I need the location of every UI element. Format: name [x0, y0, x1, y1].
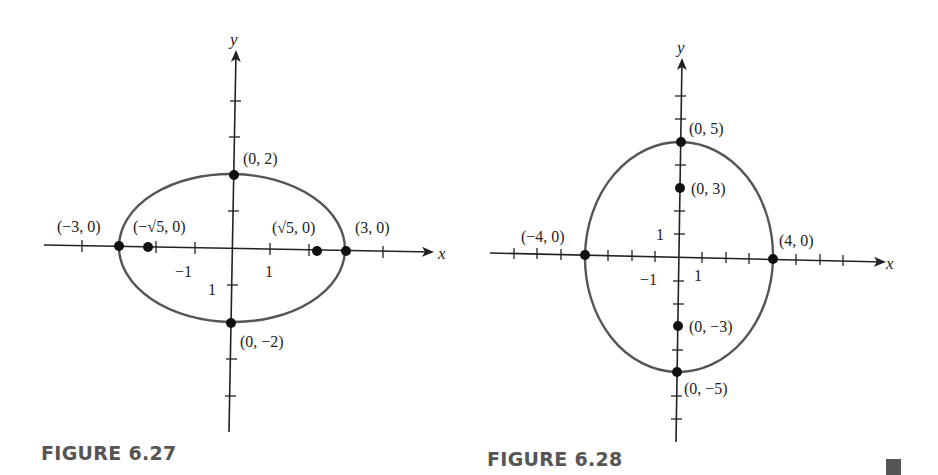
label-0-3: (0, 3)	[691, 180, 726, 198]
label-4-0: (4, 0)	[779, 232, 814, 250]
point-0-m3	[673, 321, 683, 331]
point-0-5	[676, 137, 686, 147]
point-0-3	[675, 183, 685, 193]
label-m4-0: (−4, 0)	[521, 228, 565, 246]
tick-label-y-1: 1	[208, 281, 216, 298]
x-axis-label: x	[437, 244, 446, 263]
x-axis	[490, 253, 884, 262]
figure-6-27-caption: FIGURE 6.27	[41, 442, 176, 464]
tick-label-x-1: 1	[694, 267, 702, 284]
figure-6-28-caption: FIGURE 6.28	[487, 448, 622, 470]
label-sqrt5-0: (√5, 0)	[272, 219, 315, 237]
tick-label-y-m1: −1	[640, 271, 657, 288]
point-sqrt5-0	[312, 246, 322, 256]
figure-6-27-plot: y x (−3, 0) (−√5, 0) (√5, 0) (3, 0) (0, …	[44, 30, 446, 432]
point-3-0	[341, 246, 351, 256]
point-0-m5	[672, 367, 682, 377]
label-3-0: (3, 0)	[355, 219, 390, 237]
point-m3-0	[114, 241, 124, 251]
label-msqrt5-0: (−√5, 0)	[133, 218, 185, 236]
point-msqrt5-0	[143, 242, 153, 252]
label-0-m2: (0, −2)	[240, 333, 284, 351]
label-m3-0: (−3, 0)	[57, 218, 101, 236]
label-0-m3: (0, −3)	[689, 318, 733, 336]
label-0-2: (0, 2)	[243, 150, 278, 168]
tick-label-x-m1: −1	[175, 263, 192, 280]
y-axis	[676, 60, 682, 442]
y-axis-label: y	[675, 38, 685, 57]
figure-6-28-plot: y x (−4, 0) (4, 0) (0, 5) (0, 3) (0, −3)…	[490, 38, 894, 442]
y-axis-label: y	[228, 30, 238, 49]
end-of-example-mark	[886, 459, 901, 475]
point-m4-0	[580, 250, 590, 260]
tick-label-x-1: 1	[265, 263, 273, 280]
tick-label-y-1: 1	[656, 226, 664, 243]
x-axis	[44, 245, 432, 252]
y-axis	[229, 52, 236, 432]
point-0-m2	[226, 318, 236, 328]
figures-canvas: y x (−3, 0) (−√5, 0) (√5, 0) (3, 0) (0, …	[0, 0, 938, 475]
label-0-m5: (0, −5)	[684, 380, 728, 398]
point-4-0	[768, 254, 778, 264]
x-axis-label: x	[885, 254, 894, 273]
label-0-5: (0, 5)	[689, 120, 724, 138]
point-0-2	[229, 170, 239, 180]
